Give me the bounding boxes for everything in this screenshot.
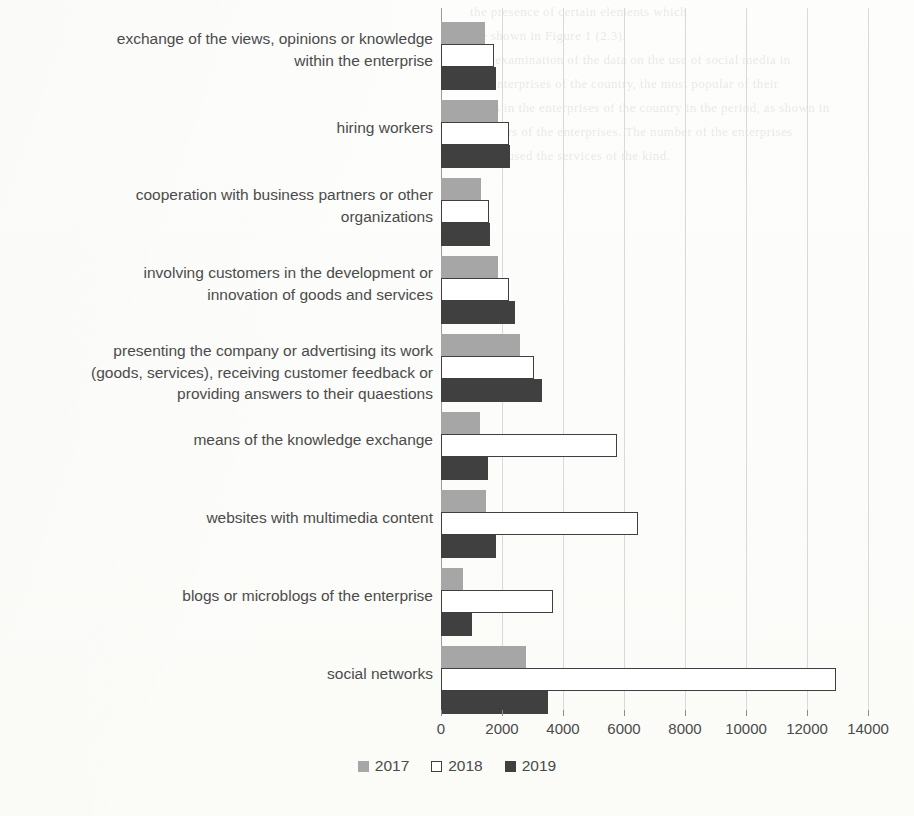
bar-group xyxy=(441,554,868,632)
bar-2017[interactable] xyxy=(441,568,463,590)
bar-2017[interactable] xyxy=(441,412,480,434)
legend-item-2019[interactable]: 2019 xyxy=(505,757,556,775)
xtick-label: 6000 xyxy=(607,720,640,737)
legend-item-2017[interactable]: 2017 xyxy=(358,757,409,775)
bar-2017[interactable] xyxy=(441,646,526,668)
xtick-label: 4000 xyxy=(546,720,579,737)
bar-group xyxy=(441,8,868,86)
category-label-3: involving customers in the development o… xyxy=(8,262,433,305)
category-label-line: involving customers in the development o… xyxy=(8,262,433,284)
bar-2017[interactable] xyxy=(441,334,520,356)
category-label-line: exchange of the views, opinions or knowl… xyxy=(8,28,433,50)
tick-10000 xyxy=(746,710,747,716)
bar-2018[interactable] xyxy=(441,668,836,691)
bar-2019[interactable] xyxy=(441,691,548,714)
bar-group xyxy=(441,398,868,476)
tick-2000 xyxy=(502,710,503,716)
bar-2018[interactable] xyxy=(441,122,509,145)
category-label-line: within the enterprise xyxy=(8,50,433,72)
bar-2018[interactable] xyxy=(441,512,638,535)
legend-swatch-icon xyxy=(431,761,442,772)
bar-2017[interactable] xyxy=(441,22,485,44)
category-label-line: organizations xyxy=(8,206,433,228)
legend-swatch-icon xyxy=(358,761,369,772)
bar-2018[interactable] xyxy=(441,434,617,457)
bar-2018[interactable] xyxy=(441,200,489,223)
legend-item-2018[interactable]: 2018 xyxy=(431,757,482,775)
category-label-0: exchange of the views, opinions or knowl… xyxy=(8,28,433,71)
bar-group xyxy=(441,632,868,710)
bar-2018[interactable] xyxy=(441,44,494,67)
category-label-line: social networks xyxy=(8,663,433,685)
chart-legend: 2017 2018 2019 xyxy=(0,757,914,775)
category-label-5: means of the knowledge exchange xyxy=(8,429,433,451)
xtick-label: 12000 xyxy=(786,720,828,737)
category-label-1: hiring workers xyxy=(8,117,433,139)
category-label-line: providing answers to their quaestions xyxy=(8,383,433,405)
xtick-label: 14000 xyxy=(847,720,889,737)
category-label-line: websites with multimedia content xyxy=(8,507,433,529)
bar-2018[interactable] xyxy=(441,590,553,613)
xtick-label: 2000 xyxy=(485,720,518,737)
tick-0 xyxy=(441,710,442,716)
category-label-line: means of the knowledge exchange xyxy=(8,429,433,451)
legend-swatch-icon xyxy=(505,761,516,772)
xtick-label: 0 xyxy=(437,720,445,737)
xtick-label: 8000 xyxy=(668,720,701,737)
category-label-7: blogs or microblogs of the enterprise xyxy=(8,585,433,607)
bar-2018[interactable] xyxy=(441,356,534,379)
legend-label: 2017 xyxy=(375,757,409,775)
category-label-8: social networks xyxy=(8,663,433,685)
bar-2017[interactable] xyxy=(441,100,498,122)
bar-group xyxy=(441,86,868,164)
category-label-line: blogs or microblogs of the enterprise xyxy=(8,585,433,607)
tick-14000 xyxy=(868,710,869,716)
bar-chart: the presence of certain elements which a… xyxy=(0,0,914,816)
tick-6000 xyxy=(624,710,625,716)
bar-group xyxy=(441,476,868,554)
bar-2017[interactable] xyxy=(441,256,498,278)
category-label-line: hiring workers xyxy=(8,117,433,139)
legend-label: 2019 xyxy=(522,757,556,775)
category-label-line: (goods, services), receiving customer fe… xyxy=(8,362,433,384)
bar-2017[interactable] xyxy=(441,490,486,512)
category-label-line: presenting the company or advertising it… xyxy=(8,340,433,362)
bar-2018[interactable] xyxy=(441,278,509,301)
bar-2017[interactable] xyxy=(441,178,481,200)
tick-4000 xyxy=(563,710,564,716)
category-label-2: cooperation with business partners or ot… xyxy=(8,184,433,227)
tick-12000 xyxy=(807,710,808,716)
bar-group xyxy=(441,164,868,242)
legend-label: 2018 xyxy=(448,757,482,775)
xtick-label: 10000 xyxy=(725,720,767,737)
gridline-14000 xyxy=(868,8,869,710)
category-label-4: presenting the company or advertising it… xyxy=(8,340,433,405)
plot-area: 0 2000 4000 6000 8000 10000 12000 14000 xyxy=(441,8,868,710)
category-label-line: innovation of goods and services xyxy=(8,284,433,306)
bar-group xyxy=(441,320,868,398)
bar-group xyxy=(441,242,868,320)
category-label-6: websites with multimedia content xyxy=(8,507,433,529)
category-label-line: cooperation with business partners or ot… xyxy=(8,184,433,206)
tick-8000 xyxy=(685,710,686,716)
